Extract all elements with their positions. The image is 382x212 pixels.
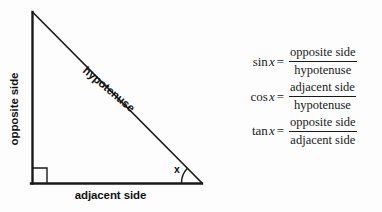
sin-fraction: opposite side hypotenuse — [289, 45, 357, 79]
right-angle-marker-icon — [33, 168, 48, 183]
tan-fraction: opposite side adjacent side — [289, 115, 357, 149]
cos-numerator: adjacent side — [289, 80, 356, 95]
sin-variable: x — [268, 54, 277, 69]
cos-equals-sign: = — [277, 89, 284, 104]
cos-function-name: cos — [251, 89, 268, 104]
angle-arc-icon — [181, 168, 187, 183]
cos-variable: x — [268, 89, 277, 104]
cos-denominator: hypotenuse — [289, 98, 356, 113]
sin-lhs: sinx= — [232, 54, 289, 70]
sin-equals-sign: = — [277, 54, 284, 69]
sin-numerator: opposite side — [289, 45, 357, 60]
cos-fraction-bar — [289, 96, 356, 97]
tan-fraction-bar — [289, 131, 357, 132]
formula-row-cos: cosx= adjacent side hypotenuse — [232, 80, 382, 114]
tan-denominator: adjacent side — [289, 133, 357, 148]
sin-function-name: sin — [253, 54, 268, 69]
triangle-diagram: opposite side adjacent side hypotenuse x — [0, 0, 215, 212]
trigonometry-figure: opposite side adjacent side hypotenuse x… — [0, 0, 382, 212]
angle-label-x: x — [174, 163, 180, 175]
formula-row-sin: sinx= opposite side hypotenuse — [232, 45, 382, 79]
opposite-side-label: opposite side — [8, 67, 20, 151]
formula-row-tan: tanx= opposite side adjacent side — [232, 115, 382, 149]
tan-function-name: tan — [252, 123, 268, 138]
tan-variable: x — [268, 123, 277, 138]
trig-ratio-formulas: sinx= opposite side hypotenuse cosx= adj… — [232, 45, 382, 149]
cos-fraction: adjacent side hypotenuse — [289, 80, 356, 114]
tan-lhs: tanx= — [232, 123, 289, 139]
tan-numerator: opposite side — [289, 115, 357, 130]
adjacent-side-label: adjacent side — [58, 189, 163, 201]
tan-equals-sign: = — [277, 123, 284, 138]
cos-lhs: cosx= — [232, 89, 289, 105]
triangle-svg — [0, 0, 215, 212]
sin-denominator: hypotenuse — [289, 63, 357, 78]
sin-fraction-bar — [289, 61, 357, 62]
